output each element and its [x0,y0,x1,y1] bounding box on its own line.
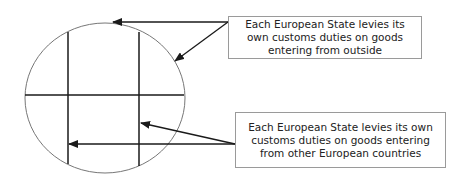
arrow-to-inner-border-right [141,123,235,144]
callout-internal-duties: Each European State levies its own custo… [235,112,446,168]
callout-text: Each European State levies its own custo… [240,121,441,160]
diagram-canvas: Each European State levies its own custo… [0,0,469,181]
arrow-to-outer-border [175,22,228,61]
europe-circle [25,23,185,173]
callout-text: Each European State levies its own custo… [233,18,417,57]
callout-external-duties: Each European State levies its own custo… [228,16,422,59]
